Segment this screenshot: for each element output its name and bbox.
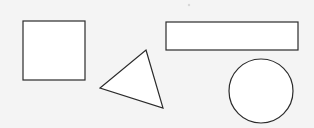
shape-square xyxy=(23,21,85,80)
shape-circle xyxy=(229,59,293,123)
paper-speck-mark xyxy=(188,4,190,6)
shapes-figure xyxy=(0,0,314,128)
shape-triangle xyxy=(100,50,163,108)
shape-rectangle xyxy=(166,22,298,50)
figure-canvas xyxy=(0,0,314,128)
